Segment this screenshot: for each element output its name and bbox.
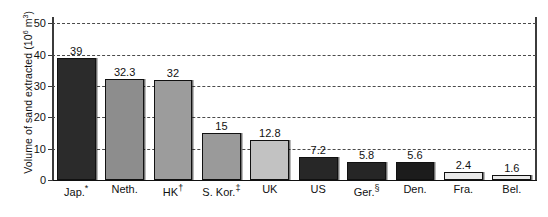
x-axis-label-text: S. Kor. [202, 186, 235, 198]
x-axis-tick-label: S. Kor.‡ [202, 183, 240, 198]
y-axis-tick-label: 50 [34, 17, 46, 29]
x-axis-tick-label: Jap.* [64, 183, 88, 198]
y-axis-tick [48, 180, 53, 181]
bar-value-label: 2.4 [456, 159, 471, 171]
y-axis-tick-label: 40 [34, 49, 46, 61]
bar[interactable]: 15 [202, 133, 241, 180]
x-axis-label-text: Jap. [64, 186, 85, 198]
x-axis-label-text: HK [163, 186, 178, 198]
bar-value-label: 5.6 [407, 149, 422, 161]
x-axis-label-footnote: * [85, 183, 89, 193]
x-axis-tick-label: Neth. [111, 183, 137, 195]
gridline [52, 55, 536, 56]
x-axis-label-text: UK [262, 183, 277, 195]
bar[interactable]: 5.8 [347, 162, 386, 180]
bar[interactable]: 5.6 [396, 162, 435, 180]
bar[interactable]: 39 [57, 58, 96, 180]
y-axis-tick [48, 149, 53, 150]
x-axis-tick-label: Fra. [454, 183, 474, 195]
gridline [52, 23, 536, 24]
bar[interactable]: 32.3 [105, 79, 144, 180]
bar[interactable]: 12.8 [250, 140, 289, 180]
x-axis-label-footnote: § [374, 183, 379, 193]
y-axis-title-exponent: 6 [22, 30, 29, 34]
bar[interactable]: 1.6 [492, 175, 531, 180]
bar-value-label: 15 [215, 120, 227, 132]
bar[interactable]: 2.4 [444, 172, 483, 180]
y-axis-title: Volume of sand extracted (106 m3) [22, 2, 35, 182]
x-axis-label-text: Neth. [111, 183, 137, 195]
x-axis-tick-label: UK [262, 183, 277, 195]
y-axis-tick-label: 10 [34, 143, 46, 155]
x-axis-tick-label: US [311, 183, 326, 195]
x-axis-tick-label: Ger.§ [354, 183, 380, 198]
bar-value-label: 7.2 [311, 144, 326, 156]
y-axis-title-tail: m [22, 18, 34, 30]
bar[interactable]: 32 [154, 80, 193, 180]
x-axis-tick-label: HK† [163, 183, 183, 198]
bar-value-label: 1.6 [504, 162, 519, 174]
bar-value-label: 39 [70, 45, 82, 57]
x-axis-label-text: Den. [403, 183, 426, 195]
y-axis-title-exponent2: 3 [22, 14, 29, 18]
bar[interactable]: 7.2 [299, 157, 338, 180]
y-axis-tick [48, 55, 53, 56]
y-axis-tick-label: 20 [34, 111, 46, 123]
x-axis-tick-label: Bel. [502, 183, 521, 195]
y-axis-tick [48, 86, 53, 87]
x-axis-label-text: Bel. [502, 183, 521, 195]
bar-value-label: 12.8 [259, 127, 280, 139]
x-axis-label-footnote: ‡ [235, 183, 240, 193]
bar-value-label: 32 [167, 67, 179, 79]
bar-value-label: 32.3 [114, 66, 135, 78]
x-axis-tick-label: Den. [403, 183, 426, 195]
x-axis-label-text: Ger. [354, 186, 375, 198]
x-axis-label-text: US [311, 183, 326, 195]
y-axis-title-close: ) [22, 11, 34, 15]
y-axis-tick-label: 30 [34, 80, 46, 92]
y-axis-tick [48, 117, 53, 118]
y-axis-tick [48, 23, 53, 24]
bar-value-label: 5.8 [359, 149, 374, 161]
plot-area: 010203040503932.3321512.87.25.85.62.41.6 [52, 17, 536, 180]
x-axis-label-text: Fra. [454, 183, 474, 195]
x-axis-label-footnote: † [178, 183, 183, 193]
y-axis-tick-label: 0 [40, 174, 46, 186]
y-axis-title-text: Volume of sand extracted (10 [22, 34, 34, 173]
bar-chart-figure: Volume of sand extracted (106 m3) 010203… [0, 0, 548, 217]
